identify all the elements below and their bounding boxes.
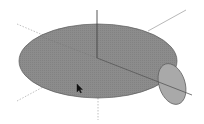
axis-upper-right [148, 10, 186, 31]
scene-canvas[interactable] [0, 0, 204, 124]
disc-texture [19, 24, 177, 98]
3d-viewport[interactable] [0, 0, 204, 124]
